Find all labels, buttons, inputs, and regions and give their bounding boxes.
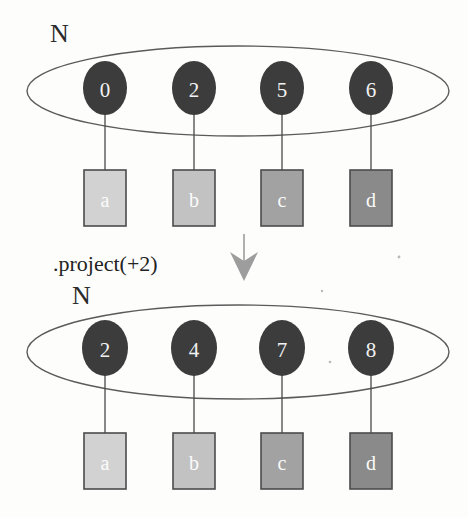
value-box-label-d-bottom: d (366, 452, 376, 474)
node-id-1-top: 2 (189, 78, 200, 102)
operation-label: .project(+2) (53, 251, 158, 276)
value-box-label-a-bottom: a (101, 452, 110, 474)
page-speck-1 (398, 256, 401, 259)
diagram-canvas: N a b c d 0 2 5 6 (0, 0, 468, 518)
node-id-0-top: 0 (100, 78, 111, 102)
node-id-2-top: 5 (277, 78, 288, 102)
value-box-label-c-top: c (278, 189, 287, 211)
node-id-2-bottom: 7 (277, 338, 288, 362)
page-speck-2 (329, 361, 332, 364)
set-label-n-bottom: N (72, 281, 91, 310)
page-speck-3 (321, 290, 323, 292)
value-box-label-b-top: b (189, 189, 199, 211)
transition-group: .project(+2) (53, 234, 400, 281)
node-id-3-top: 6 (366, 78, 377, 102)
arrow-down-icon (230, 234, 258, 281)
stage-before: N a b c d 0 2 5 6 (27, 19, 449, 226)
node-id-1-bottom: 4 (189, 338, 200, 362)
node-id-3-bottom: 8 (366, 338, 377, 362)
set-label-n-top: N (50, 19, 69, 48)
node-id-0-bottom: 2 (100, 338, 111, 362)
value-box-label-c-bottom: c (278, 452, 287, 474)
value-box-label-b-bottom: b (189, 452, 199, 474)
value-box-label-d-top: d (366, 189, 376, 211)
value-box-label-a-top: a (101, 189, 110, 211)
stage-after: N a b c d 2 4 7 8 (27, 281, 449, 489)
